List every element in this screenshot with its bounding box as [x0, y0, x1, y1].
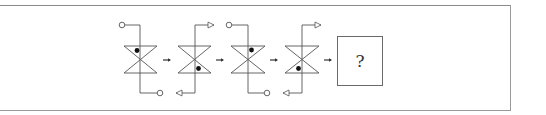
arrowhead-icon — [275, 58, 278, 61]
circle-terminal-icon — [264, 90, 270, 96]
figure-4 — [283, 25, 321, 93]
dot-icon — [196, 66, 201, 71]
figure-1 — [119, 22, 163, 96]
circle-terminal-icon — [157, 90, 163, 96]
circle-terminal-icon — [119, 22, 125, 28]
dot-icon — [135, 48, 140, 53]
arrowhead-icon — [329, 58, 332, 61]
dot-icon — [249, 48, 254, 53]
arrowhead-icon — [168, 58, 171, 61]
bowtie-icon — [124, 46, 157, 73]
arrowhead-icon — [221, 58, 224, 61]
figure-3 — [226, 22, 270, 96]
dot-icon — [296, 66, 301, 71]
answer-box: ? — [337, 36, 383, 86]
figure-2 — [176, 25, 214, 93]
question-mark: ? — [355, 51, 364, 71]
circle-terminal-icon — [226, 22, 232, 28]
figure-sequence — [0, 0, 546, 115]
bowtie-icon — [178, 46, 211, 73]
